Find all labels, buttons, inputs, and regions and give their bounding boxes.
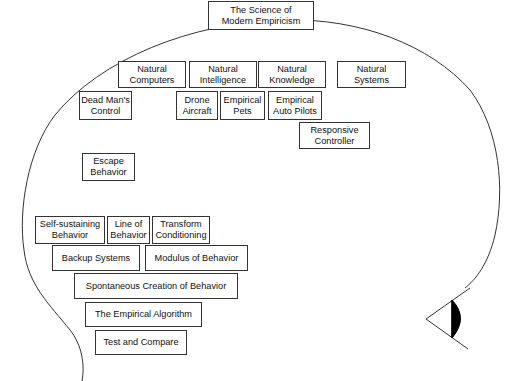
box-dead-mans-control: Dead Man's Control — [79, 91, 132, 120]
box-modulus-of-behavior: Modulus of Behavior — [145, 245, 248, 271]
title-box: The Science of Modern Empiricism — [208, 1, 314, 30]
box-natural-systems: Natural Systems — [337, 61, 406, 88]
box-natural-intelligence: Natural Intelligence — [189, 61, 257, 88]
box-empirical-pets: Empirical Pets — [220, 91, 265, 120]
box-backup-systems: Backup Systems — [52, 245, 140, 271]
box-empirical-algorithm: The Empirical Algorithm — [85, 302, 202, 327]
box-test-and-compare: Test and Compare — [95, 330, 187, 355]
box-drone-aircraft: Drone Aircraft — [176, 91, 218, 120]
box-empirical-auto-pilots: Empirical Auto Pilots — [268, 91, 322, 120]
box-line-of-behavior: Line of Behavior — [107, 216, 150, 244]
box-responsive-controller: Responsive Controller — [299, 122, 370, 149]
box-self-sustaining-behavior: Self-sustaining Behavior — [35, 216, 105, 244]
empiricism-head-diagram: The Science of Modern Empiricism Natural… — [0, 0, 515, 381]
box-escape-behavior: Escape Behavior — [82, 153, 135, 181]
eye-icon — [0, 0, 515, 381]
box-transform-conditioning: Transform Conditioning — [152, 216, 210, 244]
box-natural-computers: Natural Computers — [118, 61, 186, 88]
box-natural-knowledge: Natural Knowledge — [258, 61, 326, 88]
box-spontaneous-creation: Spontaneous Creation of Behavior — [74, 273, 238, 299]
